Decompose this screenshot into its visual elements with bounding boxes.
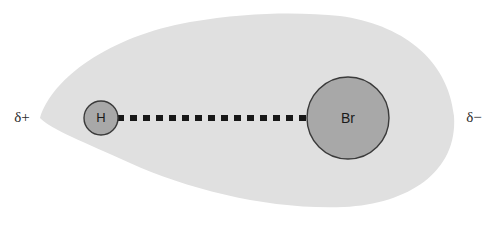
- polar-bond-diagram: H Br δ+ δ−: [0, 0, 499, 230]
- atom-hydrogen-label: H: [96, 110, 105, 125]
- partial-charge-positive-label: δ+: [14, 109, 30, 125]
- diagram-canvas: H Br δ+ δ−: [0, 0, 499, 230]
- partial-charge-negative-label: δ−: [466, 109, 482, 125]
- atom-bromine-label: Br: [341, 110, 355, 126]
